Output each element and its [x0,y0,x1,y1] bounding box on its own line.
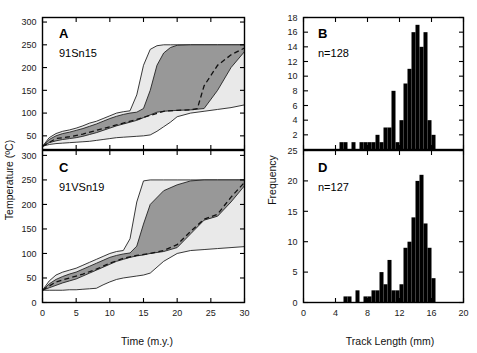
histogram-bar [412,32,416,149]
panel-A-envelopes [43,45,245,147]
panel-C-sample-label: 91VSn19 [59,181,104,193]
y-tick-label: 50 [26,131,36,141]
x-tick-label: 20 [172,308,182,318]
y-tick-label: 14 [287,42,297,52]
histogram-bar [428,120,432,149]
histogram-bar [420,175,424,303]
x-tick-label: 10 [105,308,115,318]
histogram-bar [396,290,400,302]
y-tick-label: 100 [21,108,36,118]
histogram-bar [360,142,364,149]
x-axis-title-time: Time (m.y.) [121,335,173,347]
histogram-bar [344,142,348,149]
figure-canvas: Temperature (ºC) Time (m.y.) Frequency T… [0,0,477,353]
y-tick-label: 100 [21,249,36,259]
x-tick-label: 16 [426,308,436,318]
y-tick-label: 10 [287,71,297,81]
y-tick-label: 150 [21,86,36,96]
histogram-bar [368,296,372,302]
histogram-bar [348,296,352,302]
y-tick-label: 300 [21,151,36,161]
histogram-bar [384,128,388,150]
x-tick-label: 0 [40,308,45,318]
histogram-bar [380,272,384,302]
y-axis-title-frequency: Frequency [266,154,278,204]
panel-B-bars [340,25,436,150]
y-tick-label: 200 [21,200,36,210]
histogram-bar [380,142,384,149]
y-tick-label: 6 [292,101,297,111]
x-tick-label: 4 [333,308,338,318]
x-tick-label: 25 [206,308,216,318]
panel-D-count-label: n=127 [318,181,349,193]
histogram-bar [404,84,408,150]
histogram-bar [384,284,388,302]
y-tick-label: 20 [287,176,297,186]
y-tick-label: 250 [21,40,36,50]
x-tick-label: 30 [239,308,249,318]
histogram-bar [376,290,380,302]
y-tick-label: 12 [287,57,297,67]
y-tick-label: 0 [31,298,36,308]
histogram-bar [376,135,380,150]
histogram-bar [408,242,412,303]
panel-D-letter: D [318,160,327,175]
y-tick-label: 10 [287,237,297,247]
histogram-bar [364,296,368,302]
y-tick-label: 0 [292,298,297,308]
y-tick-label: 16 [287,27,297,37]
panel-D: 0481216200510152025 D n=127 [287,146,468,318]
histogram-bar [392,290,396,302]
panel-C: 051015202530050100150200250300 C 91VSn19 [21,151,249,318]
figure-root: Temperature (ºC) Time (m.y.) Frequency T… [0,0,477,353]
y-tick-label: 25 [287,146,297,156]
histogram-bar [388,128,392,150]
y-tick-label: 300 [21,17,36,27]
histogram-bar [416,181,420,303]
histogram-bar [352,142,356,149]
histogram-bar [392,91,396,150]
histogram-bar [424,32,428,149]
y-tick-label: 4 [292,115,297,125]
panel-B: 24681012141618 B n=128 [287,13,463,150]
histogram-bar [372,142,376,149]
x-tick-label: 12 [394,308,404,318]
panel-B-ticks: 24681012141618 [287,13,463,150]
histogram-bar [388,260,392,303]
y-tick-label: 200 [21,63,36,73]
panel-A-letter: A [59,26,69,41]
histogram-bar [412,217,416,302]
y-tick-label: 5 [292,267,297,277]
y-tick-label: 18 [287,13,297,23]
panel-C-envelopes [43,180,245,290]
histogram-bar [368,142,372,149]
histogram-bar [364,142,368,149]
y-axis-title-temperature: Temperature (ºC) [3,140,15,220]
histogram-bar [356,290,360,302]
panel-B-count-label: n=128 [318,47,349,59]
x-tick-label: 20 [458,308,468,318]
histogram-bar [344,296,348,302]
panel-B-letter: B [318,26,327,41]
y-tick-label: 15 [287,207,297,217]
panel-D-bars [344,175,436,303]
panel-C-letter: C [59,160,69,175]
x-tick-label: 5 [74,308,79,318]
histogram-bar [424,223,428,302]
x-tick-label: 8 [365,308,370,318]
histogram-bar [408,69,412,150]
y-tick-label: 250 [21,175,36,185]
panel-A: 50100150200250300 A 91Sn15 [21,17,244,149]
histogram-bar [404,248,408,303]
histogram-bar [400,120,404,149]
x-tick-label: 0 [301,308,306,318]
histogram-bar [432,135,436,150]
x-axis-title-track-length: Track Length (mm) [346,335,434,347]
histogram-bar [340,142,344,149]
x-tick-label: 15 [138,308,148,318]
y-tick-label: 2 [292,130,297,140]
y-tick-label: 8 [292,86,297,96]
histogram-bar [396,142,400,149]
y-tick-label: 150 [21,224,36,234]
histogram-bar [420,47,424,150]
